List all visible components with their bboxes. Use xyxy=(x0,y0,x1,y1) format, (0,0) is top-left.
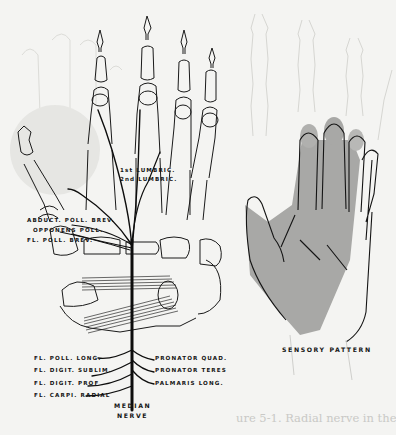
label-fl-poll-long: FL. POLL. LONG. xyxy=(34,356,102,362)
label-median: MEDIAN xyxy=(114,403,151,409)
label-pronator-quad: PRONATOR QUAD. xyxy=(155,356,227,362)
label-fl-poll-brev: FL. POLL. BREV. xyxy=(27,238,93,244)
label-pronator-teres: PRONATOR TERES xyxy=(155,368,227,374)
label-nerve: NERVE xyxy=(117,413,148,419)
label-palmaris-long: PALMARIS LONG. xyxy=(155,381,224,387)
label-opponens-poll: OPPONENS POLL. xyxy=(33,228,103,234)
label-fl-digit-sublim: FL. DIGIT. SUBLIM. xyxy=(34,368,112,374)
label-1st-lumbrical: 1st LUMBRIC. xyxy=(120,168,175,174)
label-fl-carpi-radial: FL. CARPI. RADIAL xyxy=(34,393,110,399)
label-abduct-poll-brev: ABDUCT. POLL. BREV. xyxy=(27,218,115,224)
label-2nd-lumbrical: 2nd LUMBRIC. xyxy=(120,177,177,183)
median-nerve-figure: 1st LUMBRIC. 2nd LUMBRIC. ABDUCT. POLL. … xyxy=(0,0,396,435)
sensory-hand xyxy=(245,117,378,380)
bleed-through-caption-line1: ure 5-1. Radial nerve in the hand. The m… xyxy=(236,411,396,425)
label-sensory-pattern: SENSORY PATTERN xyxy=(282,347,372,353)
label-fl-digit-prof: FL. DIGIT. PROF xyxy=(34,381,99,387)
ghost-bones-right xyxy=(251,14,392,140)
sensory-shaded-area xyxy=(245,140,360,335)
